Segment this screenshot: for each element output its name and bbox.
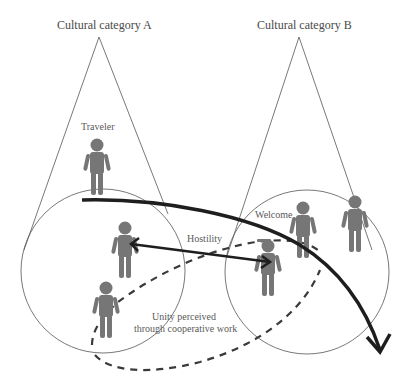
person-a1-icon [111,222,139,279]
welcome-label: Welcome [255,210,293,220]
cap-icon [257,239,271,242]
traveler-figure-icon [83,139,111,196]
person-b-welcome-1-icon [289,202,317,259]
hostility-label: Hostility [187,234,222,244]
person-b-hostile-icon [254,240,282,297]
person-b-welcome-2-icon [341,196,369,253]
category-b-group [225,37,389,354]
hostility-arrow-line [131,244,270,262]
unity-label-line2: through cooperative work [134,323,234,335]
unity-label-line1: Unity perceived [134,311,234,323]
category-b-label: Cultural category B [257,19,352,31]
unity-label: Unity perceived through cooperative work [134,311,234,335]
traveler-label: Traveler [81,122,115,132]
category-a-label: Cultural category A [57,19,152,31]
